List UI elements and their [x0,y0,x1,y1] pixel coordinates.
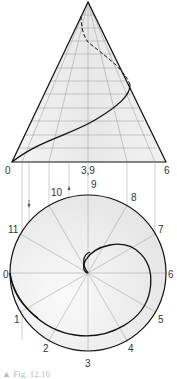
conical-helix-diagram: 0 3,9 6 0 1 2 3 4 5 6 7 8 9 10 11 ▲ Fig.… [0,0,177,379]
plan-label-9: 9 [91,179,97,190]
plan-label-2: 2 [43,343,49,354]
plan-label-0: 0 [3,269,9,280]
cone-plan [10,195,166,351]
plan-label-10: 10 [51,187,63,198]
plan-label-11: 11 [8,224,19,235]
label-3-9: 3,9 [81,165,95,176]
plan-label-8: 8 [131,192,137,203]
elevation-labels: 0 3,9 6 [5,165,170,176]
plan-label-4: 4 [128,343,134,354]
plan-label-6: 6 [168,269,174,280]
plan-label-3: 3 [85,358,91,369]
plan-label-5: 5 [158,314,164,325]
plan-label-7: 7 [158,224,164,235]
figure-caption: ▲ Fig. 12.16 [2,369,50,379]
plan-label-1: 1 [14,314,20,325]
arrow-down-icon [28,204,31,208]
label-0: 0 [5,165,11,176]
arrow-up-icon [68,186,71,190]
label-6: 6 [164,165,170,176]
cone-elevation [12,2,166,162]
